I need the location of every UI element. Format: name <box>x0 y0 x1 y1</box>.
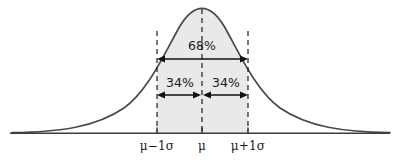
label-percent-34-right: 34% <box>204 75 248 90</box>
axis-label-minus-one-sigma: μ−1σ <box>127 139 187 153</box>
label-percent-68: 68% <box>172 38 232 53</box>
axis-label-plus-one-sigma: μ+1σ <box>218 139 278 153</box>
label-percent-34-left: 34% <box>158 75 202 90</box>
axis-label-mean: μ <box>182 139 222 153</box>
normal-distribution-figure: 68% 34% 34% μ−1σ μ μ+1σ <box>0 0 401 160</box>
shaded-sigma-region <box>12 8 390 133</box>
